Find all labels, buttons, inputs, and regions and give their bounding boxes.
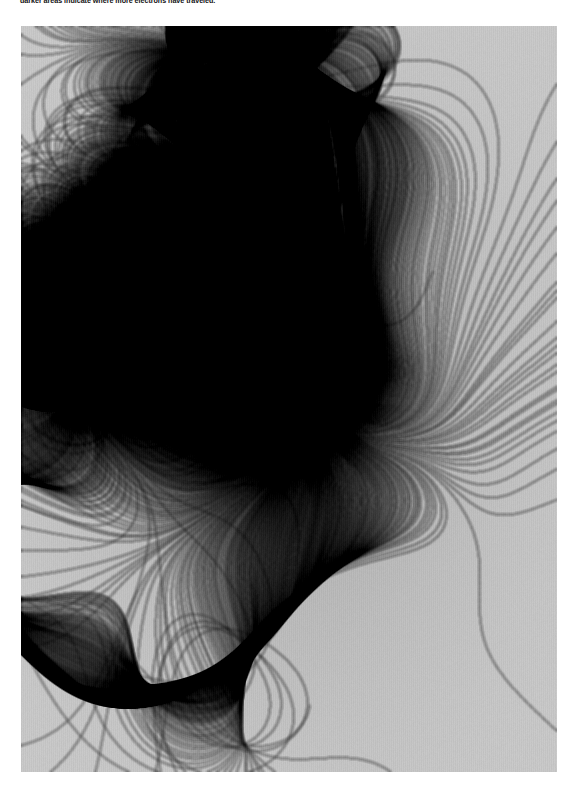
figure-caption: darker areas indicate where more electro… [0, 0, 575, 8]
figure-image-panel [21, 26, 557, 772]
figure-caption-text: darker areas indicate where more electro… [20, 0, 215, 6]
electron-density-map-canvas [21, 26, 557, 772]
